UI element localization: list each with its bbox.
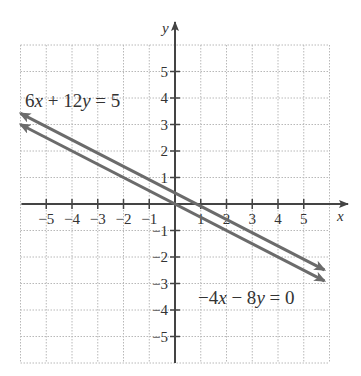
y-tick-label: −4 <box>152 302 168 318</box>
series-line-1 <box>21 113 325 269</box>
x-axis-label: x <box>336 208 344 224</box>
coordinate-plane: −5−4−3−2−112345−5−4−3−2−112345 y x 6x + … <box>0 0 361 376</box>
lines <box>21 113 325 280</box>
y-tick-label: −1 <box>152 223 168 239</box>
y-tick-label: −5 <box>152 329 168 345</box>
equation-label-2: −4x − 8y = 0 <box>198 287 295 308</box>
x-tick-label: 4 <box>274 211 282 227</box>
x-tick-label: 3 <box>249 211 257 227</box>
y-tick-label: 3 <box>161 117 169 133</box>
x-tick-label: −4 <box>64 211 80 227</box>
y-tick-label: −2 <box>152 249 168 265</box>
x-tick-label: −5 <box>38 211 54 227</box>
y-tick-label: −3 <box>152 276 168 292</box>
equation-label-1: 6x + 12y = 5 <box>25 90 120 111</box>
axes <box>22 22 349 363</box>
y-tick-label: 5 <box>161 64 169 80</box>
x-tick-label: −3 <box>90 211 106 227</box>
y-tick-label: 2 <box>161 143 169 159</box>
y-tick-label: 1 <box>161 170 169 186</box>
x-tick-label: 5 <box>300 211 308 227</box>
x-tick-label: −2 <box>116 211 132 227</box>
y-tick-label: 4 <box>161 90 169 106</box>
y-axis-label: y <box>160 20 169 36</box>
